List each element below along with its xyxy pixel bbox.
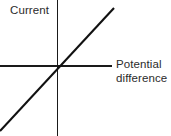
x-axis-label-line2: difference <box>116 72 167 86</box>
x-axis-label-line1: Potential <box>116 58 167 72</box>
y-axis-label: Current <box>10 4 49 18</box>
x-axis-label: Potential difference <box>116 58 167 85</box>
iv-characteristic-figure: Current Potential difference <box>0 0 171 136</box>
